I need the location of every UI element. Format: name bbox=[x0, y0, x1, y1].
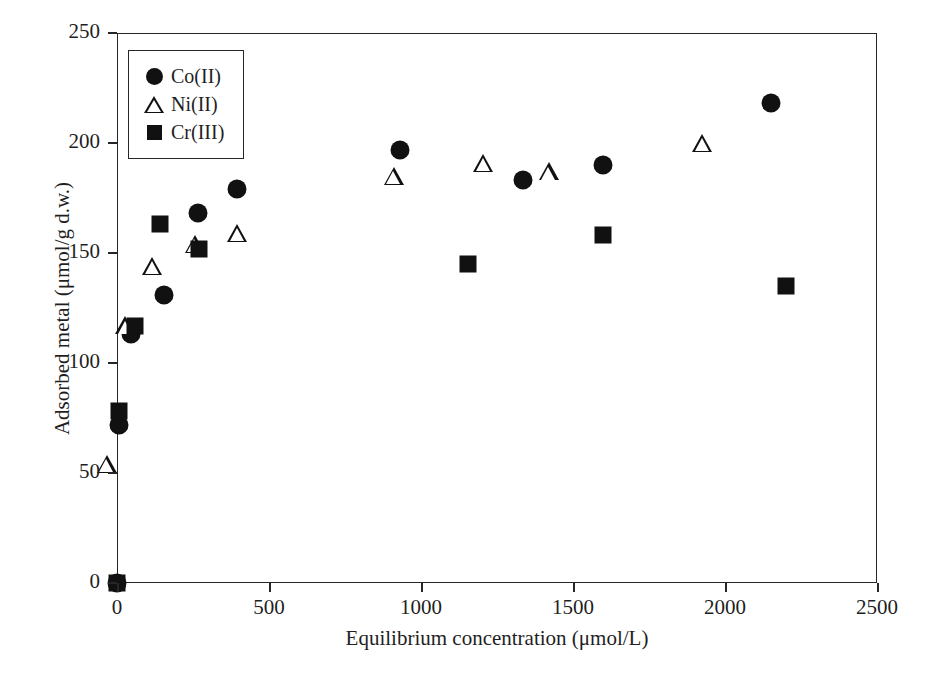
legend-marker-icon bbox=[142, 96, 166, 113]
legend-entry-niii: Ni(II) bbox=[142, 90, 243, 118]
legend-box: Co(II)Ni(II)Cr(III) bbox=[128, 50, 244, 159]
x-tick-label: 2000 bbox=[680, 595, 770, 620]
x-tick-label: 1000 bbox=[376, 595, 466, 620]
y-tick bbox=[108, 472, 117, 474]
x-tick bbox=[421, 583, 423, 592]
x-tick bbox=[269, 583, 271, 592]
x-tick bbox=[117, 583, 119, 592]
legend-label: Ni(II) bbox=[171, 93, 218, 116]
y-tick bbox=[108, 142, 117, 144]
y-tick bbox=[108, 362, 117, 364]
x-tick bbox=[877, 583, 879, 592]
legend-label: Co(II) bbox=[171, 65, 221, 88]
x-tick-label: 0 bbox=[72, 595, 162, 620]
legend-label: Cr(III) bbox=[171, 121, 224, 144]
x-tick bbox=[725, 583, 727, 592]
legend-entry-coii: Co(II) bbox=[142, 62, 243, 90]
legend-marker-icon bbox=[142, 68, 166, 85]
x-tick-label: 500 bbox=[224, 595, 314, 620]
scatter-chart-figure: 05001000150020002500050100150200250 Equi… bbox=[0, 0, 925, 680]
y-tick bbox=[108, 252, 117, 254]
legend-entry-criii: Cr(III) bbox=[142, 118, 243, 146]
y-axis-title: Adsorbed metal (μmol/g d.w.) bbox=[50, 34, 75, 584]
x-axis-title: Equilibrium concentration (μmol/L) bbox=[117, 626, 877, 651]
x-tick-label: 2500 bbox=[832, 595, 922, 620]
y-tick bbox=[108, 32, 117, 34]
x-tick-label: 1500 bbox=[528, 595, 618, 620]
legend-marker-icon bbox=[142, 125, 166, 140]
x-tick bbox=[573, 583, 575, 592]
y-tick bbox=[108, 582, 117, 584]
